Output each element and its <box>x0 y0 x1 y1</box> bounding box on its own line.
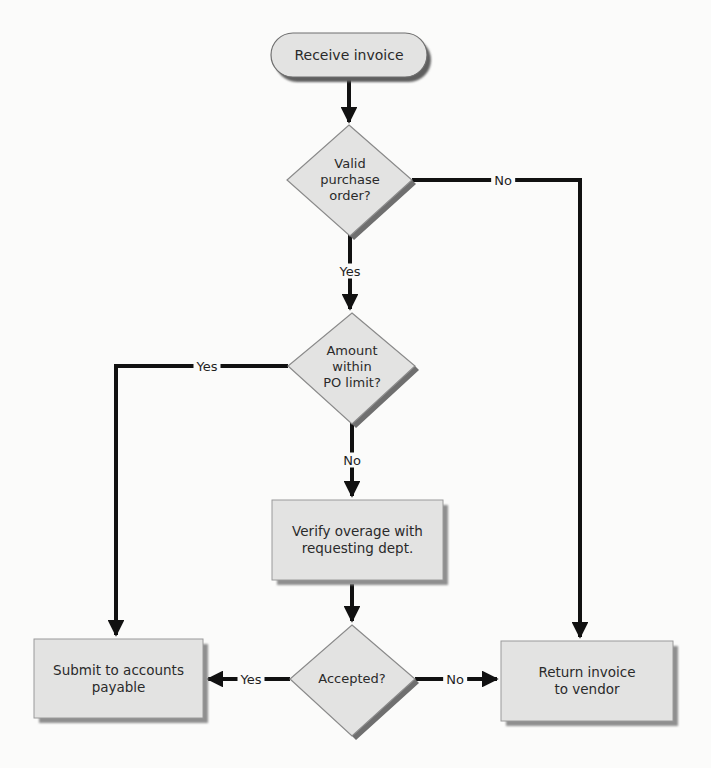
edge-label-accepted-yes: Yes <box>238 672 265 687</box>
node-accepted-decision <box>290 625 419 740</box>
node-return-process <box>501 641 678 726</box>
edge-label-valid-yes: Yes <box>337 264 364 279</box>
edge-label-valid-no: No <box>491 173 515 188</box>
flowchart-canvas <box>0 0 711 768</box>
edge-label-limit-no: No <box>340 453 364 468</box>
edge-within-limit-yes-to-submit <box>116 366 288 635</box>
edge-label-limit-yes: Yes <box>194 359 221 374</box>
node-verify-process <box>272 500 448 585</box>
node-within-limit-decision <box>288 313 419 428</box>
node-submit-process <box>34 639 208 723</box>
node-start-terminal <box>271 33 431 82</box>
edge-label-accepted-no: No <box>443 672 467 687</box>
node-valid-po-decision <box>287 125 416 240</box>
